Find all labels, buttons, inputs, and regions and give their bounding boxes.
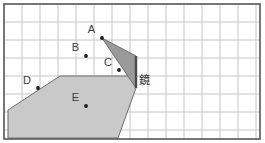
point-marker-b: [84, 54, 88, 58]
point-marker-c: [117, 68, 121, 72]
point-marker-e: [84, 104, 88, 108]
point-label-e: E: [72, 91, 79, 103]
figure-container: ABCDE 鏡: [0, 0, 265, 143]
point-label-a: A: [88, 23, 96, 35]
point-marker-d: [36, 86, 40, 90]
point-label-d: D: [23, 74, 31, 86]
geometry-diagram: ABCDE 鏡: [0, 0, 265, 143]
point-label-b: B: [72, 41, 79, 53]
point-label-c: C: [104, 56, 112, 68]
point-marker-a: [100, 36, 104, 40]
mirror-label: 鏡: [139, 73, 150, 87]
